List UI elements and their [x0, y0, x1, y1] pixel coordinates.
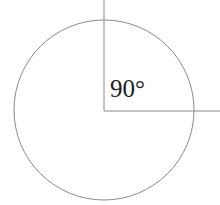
figure-canvas: [0, 0, 220, 205]
angle-measure-label: 90°: [110, 76, 145, 101]
geometry-figure: 90°: [0, 0, 220, 205]
